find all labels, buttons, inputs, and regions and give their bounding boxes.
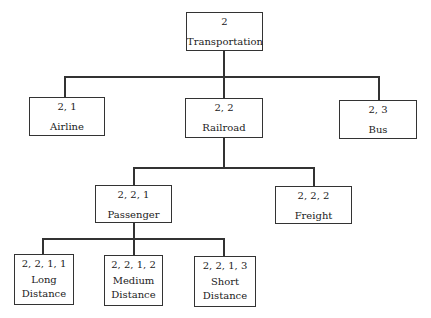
node-label: Transportation	[187, 36, 262, 49]
node-id: 2, 2, 1, 1	[15, 258, 73, 271]
node-passenger: 2, 2, 1 Passenger	[95, 185, 172, 223]
node-transportation: 2 Transportation	[186, 12, 263, 51]
node-label-line1: Short	[195, 276, 255, 289]
connector-short-distance	[223, 238, 225, 256]
node-label: Freight	[276, 210, 351, 223]
node-bus: 2, 3 Bus	[339, 100, 417, 139]
node-medium-distance: 2, 2, 1, 2 Medium Distance	[104, 255, 163, 306]
node-label: Passenger	[96, 209, 171, 222]
node-id: 2	[187, 16, 262, 29]
node-freight: 2, 2, 2 Freight	[275, 186, 352, 224]
connector-medium-distance	[133, 238, 135, 255]
node-id: 2, 2, 1, 2	[105, 259, 162, 272]
connector-level1-bar	[64, 76, 379, 78]
node-label: Airline	[30, 121, 104, 134]
connector-passenger-down	[133, 222, 135, 239]
node-id: 2, 1	[30, 101, 104, 114]
connector-passenger	[133, 167, 135, 185]
node-label-line2: Distance	[195, 290, 255, 303]
node-long-distance: 2, 2, 1, 1 Long Distance	[14, 254, 74, 305]
connector-root-down	[223, 50, 225, 77]
node-label-line1: Long	[15, 274, 73, 287]
node-id: 2, 2, 1, 3	[195, 260, 255, 273]
connector-freight	[313, 167, 315, 186]
connector-long-distance	[42, 238, 44, 254]
node-short-distance: 2, 2, 1, 3 Short Distance	[194, 256, 256, 307]
connector-level2-bar	[133, 167, 314, 169]
node-id: 2, 2	[186, 102, 262, 115]
connector-railroad	[223, 76, 225, 98]
node-label: Railroad	[186, 122, 262, 135]
node-label: Bus	[340, 124, 416, 137]
node-id: 2, 2, 1	[96, 189, 171, 202]
node-label-line1: Medium	[105, 275, 162, 288]
node-railroad: 2, 2 Railroad	[185, 98, 263, 138]
node-id: 2, 2, 2	[276, 190, 351, 203]
node-label-line2: Distance	[15, 288, 73, 301]
connector-bus	[378, 76, 380, 100]
connector-airline	[64, 76, 66, 97]
node-id: 2, 3	[340, 104, 416, 117]
node-airline: 2, 1 Airline	[29, 97, 105, 136]
node-label-line2: Distance	[105, 289, 162, 302]
connector-railroad-down	[223, 137, 225, 168]
